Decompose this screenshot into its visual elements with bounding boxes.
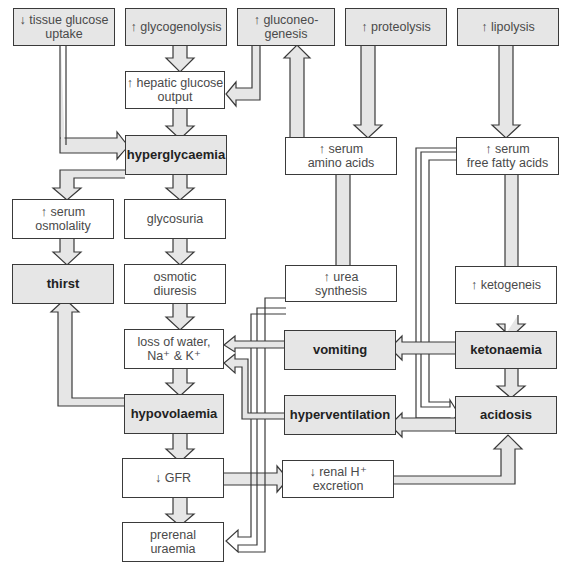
node-hypovolaemia: hypovolaemia (124, 394, 224, 434)
arrow-amino-to-gluconeogenesis (284, 45, 310, 138)
arrow-ffa-to-acidosis (416, 148, 458, 425)
node-glycogenolysis: ↑ glycogenolysis (125, 8, 227, 46)
arrow-hypovolaemia-to-thirst (51, 299, 125, 406)
node-thirst: thirst (12, 264, 114, 304)
node-vomiting: vomiting (284, 330, 396, 370)
arrow-hyperventilation-to-loss (224, 354, 285, 419)
node-osmotic-diuresis: osmotic diuresis (124, 264, 226, 304)
node-renal-h-excretion: ↓ renal H⁺ excretion (282, 460, 394, 498)
arrow-glycosuria-to-diuresis (166, 238, 194, 265)
arrow-tissue-to-hyperglycaemia (60, 45, 128, 159)
node-gfr: ↓ GFR (122, 458, 224, 498)
arrow-gfr-to-renal (224, 466, 288, 492)
node-serum-free-fatty-acids: ↑ serum free fatty acids (456, 137, 559, 175)
arrow-gluconeogenesis-to-hepatic (226, 45, 260, 106)
node-urea-synthesis: ↑ urea synthesis (285, 265, 397, 302)
pathophysiology-diagram: ↓ tissue glucose uptake ↑ glycogenolysis… (0, 0, 569, 571)
node-acidosis: acidosis (455, 396, 557, 434)
node-lipolysis: ↑ lipolysis (457, 8, 559, 46)
node-ketonaemia: ketonaemia (455, 331, 557, 369)
node-prerenal-uraemia: prerenal uraemia (122, 522, 224, 562)
node-proteolysis: ↑ proteolysis (345, 8, 447, 46)
arrow-diuresis-to-loss (166, 303, 194, 330)
arrow-hyperglycaemia-to-glycosuria (166, 174, 194, 200)
arrow-osmolality-to-thirst (53, 238, 81, 265)
arrow-vomiting-to-loss (224, 336, 285, 352)
node-hyperglycaemia: hyperglycaemia (125, 135, 227, 175)
node-serum-osmolality: ↑ serum osmolality (12, 199, 114, 239)
arrow-glycogenolysis-to-hepatic (166, 45, 194, 72)
arrow-loss-to-hypovolaemia (166, 368, 194, 396)
node-tissue-glucose-uptake: ↓ tissue glucose uptake (13, 8, 115, 46)
arrow-proteolysis-to-amino (354, 45, 382, 138)
arrow-acidosis-to-hyperventilation (390, 413, 456, 437)
arrow-ketonaemia-to-acidosis (497, 368, 525, 398)
arrow-hyperglycaemia-to-osmolality (53, 170, 125, 200)
arrow-renal-to-acidosis (391, 435, 522, 484)
node-ketogenesis: ↑ ketogeneis (455, 266, 557, 304)
node-hyperventilation: hyperventilation (284, 395, 396, 435)
node-hepatic-glucose-output: ↑ hepatic glucose output (125, 71, 225, 109)
node-loss-of-water: loss of water, Na⁺ & K⁺ (124, 329, 224, 369)
arrow-lipolysis-to-ffa (492, 45, 520, 138)
node-serum-amino-acids: ↑ serum amino acids (285, 137, 397, 175)
node-gluconeogenesis: ↑ gluconeo- genesis (237, 8, 335, 46)
arrow-ketonaemia-to-vomiting (390, 336, 456, 360)
node-glycosuria: glycosuria (124, 199, 226, 239)
